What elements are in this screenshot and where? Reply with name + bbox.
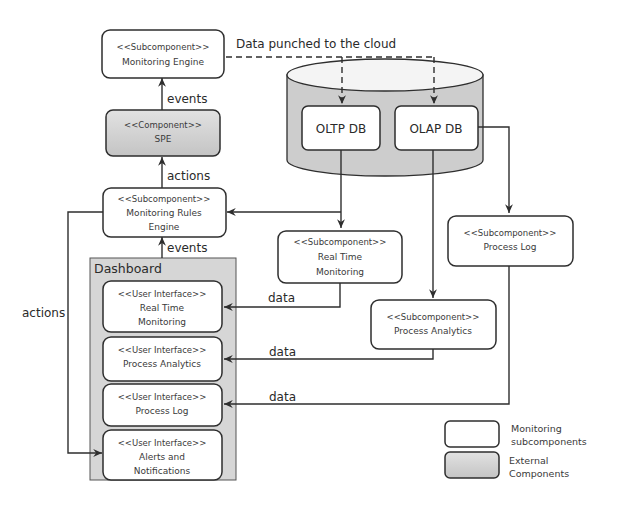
- ui-rtm-name-line2: Monitoring: [138, 317, 186, 327]
- oltp-db-box[interactable]: OLTP DB: [302, 106, 380, 150]
- monitoring-engine-stereotype: <<Subcomponent>>: [117, 42, 210, 52]
- ui-pl-name: Process Log: [135, 406, 188, 416]
- spe-box[interactable]: <<Component>> SPE: [106, 110, 220, 156]
- edge-label-cloud: Data punched to the cloud: [236, 37, 396, 51]
- edge-label-data-rtm: data: [268, 291, 295, 305]
- architecture-diagram: Dashboard Data punched to the cloud even…: [0, 0, 623, 512]
- legend: Monitoring subcomponents External Compon…: [445, 421, 587, 479]
- dashboard-title: Dashboard: [94, 261, 162, 276]
- process-log-box[interactable]: <<Subcomponent>> Process Log: [448, 216, 573, 266]
- monitoring-engine-name: Monitoring Engine: [122, 57, 204, 67]
- process-analytics-box[interactable]: <<Subcomponent>> Process Analytics: [371, 300, 496, 349]
- monitoring-rules-engine-box[interactable]: <<Subcomponent>> Monitoring Rules Engine: [103, 188, 226, 237]
- legend-monitoring-line1: Monitoring: [511, 423, 562, 434]
- rtm-name-line2: Monitoring: [316, 267, 364, 277]
- ui-rtm-stereotype: <<User Interface>>: [118, 289, 207, 299]
- pa-name: Process Analytics: [394, 326, 472, 336]
- edge-label-events-bottom: events: [167, 241, 207, 255]
- edge-label-data-pa: data: [269, 345, 296, 359]
- olap-db-box[interactable]: OLAP DB: [395, 106, 478, 150]
- edge-label-actions-top: actions: [167, 169, 210, 183]
- ui-process-log[interactable]: <<User Interface>> Process Log: [103, 384, 222, 426]
- ui-pa-stereotype: <<User Interface>>: [118, 345, 207, 355]
- monitoring-engine-box[interactable]: <<Subcomponent>> Monitoring Engine: [102, 30, 224, 78]
- ui-alerts-notifications[interactable]: <<User Interface>> Alerts and Notificati…: [103, 430, 222, 480]
- pa-stereotype: <<Subcomponent>>: [387, 312, 480, 322]
- legend-swatch-monitoring: [445, 421, 499, 447]
- ui-rtm-name-line1: Real Time: [140, 303, 185, 313]
- ui-pa-name: Process Analytics: [123, 359, 201, 369]
- edge-label-events-top: events: [167, 92, 207, 106]
- ui-alerts-name-line2: Notifications: [134, 466, 191, 476]
- pl-name: Process Log: [483, 242, 536, 252]
- real-time-monitoring-box[interactable]: <<Subcomponent>> Real Time Monitoring: [278, 231, 402, 283]
- oltp-db-name: OLTP DB: [316, 122, 366, 136]
- rtm-name-line1: Real Time: [318, 252, 363, 262]
- ui-real-time-monitoring[interactable]: <<User Interface>> Real Time Monitoring: [103, 281, 222, 332]
- ui-pl-stereotype: <<User Interface>>: [118, 392, 207, 402]
- rtm-stereotype: <<Subcomponent>>: [294, 237, 387, 247]
- legend-external-line2: Components: [509, 468, 569, 479]
- ui-process-analytics[interactable]: <<User Interface>> Process Analytics: [103, 337, 222, 381]
- pl-stereotype: <<Subcomponent>>: [464, 228, 557, 238]
- legend-monitoring-line2: subcomponents: [511, 436, 587, 447]
- edge-label-actions-left: actions: [22, 306, 65, 320]
- edge-label-data-pl: data: [269, 390, 296, 404]
- olap-db-name: OLAP DB: [409, 122, 462, 136]
- spe-stereotype: <<Component>>: [124, 120, 202, 130]
- spe-name: SPE: [155, 134, 172, 144]
- legend-external-line1: External: [509, 455, 548, 466]
- mre-stereotype: <<Subcomponent>>: [118, 194, 211, 204]
- legend-swatch-external: [445, 452, 499, 478]
- mre-name-line2: Engine: [149, 222, 180, 232]
- ui-alerts-name-line1: Alerts and: [139, 452, 185, 462]
- mre-name-line1: Monitoring Rules: [126, 208, 202, 218]
- ui-alerts-stereotype: <<User Interface>>: [118, 438, 207, 448]
- edge-pa-ui: [224, 349, 433, 359]
